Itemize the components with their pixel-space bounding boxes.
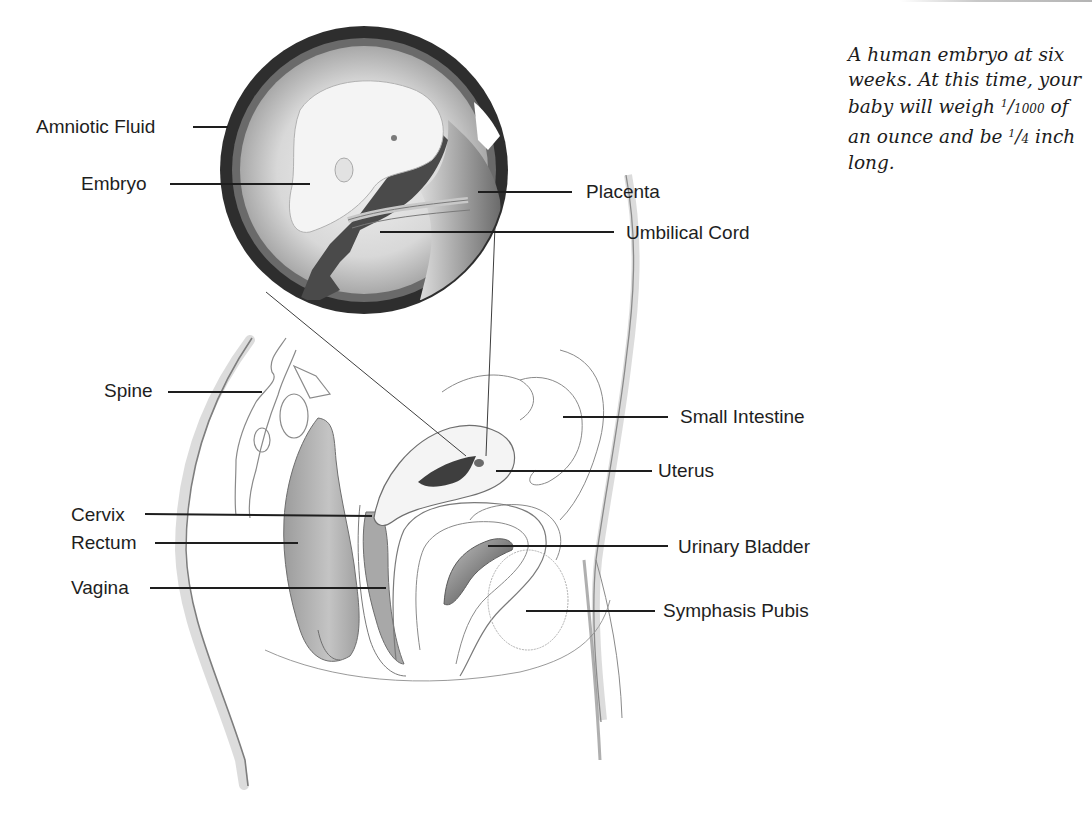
- label-spine: Spine: [104, 381, 153, 400]
- label-amniotic-fluid: Amniotic Fluid: [36, 117, 155, 136]
- label-placenta: Placenta: [586, 182, 660, 201]
- figure-caption: A human embryo at six weeks. At this tim…: [848, 43, 1092, 176]
- label-urinary-bladder: Urinary Bladder: [678, 537, 810, 556]
- uterus-drawing: [374, 425, 515, 525]
- label-small-intestine: Small Intestine: [680, 407, 805, 426]
- weight-numerator: 1: [1001, 97, 1008, 110]
- caption-line-2: weeks. At this time, your: [848, 68, 1092, 93]
- caption-text: an ounce and be: [848, 126, 1008, 147]
- caption-line-1: A human embryo at six: [848, 43, 1092, 68]
- caption-line-3: baby will weigh 1/1000 of: [848, 92, 1092, 122]
- length-numerator: 1: [1008, 127, 1015, 140]
- embryo-inset: [220, 26, 508, 316]
- vagina-drawing: [358, 505, 406, 676]
- caption-line-4: an ounce and be 1/4 inch: [848, 122, 1092, 152]
- label-rectum: Rectum: [71, 533, 136, 552]
- rectum-drawing: [284, 418, 359, 661]
- label-embryo: Embryo: [81, 174, 146, 193]
- caption-text: inch: [1029, 126, 1075, 147]
- bladder-drawing: [393, 503, 568, 676]
- label-uterus: Uterus: [658, 461, 714, 480]
- label-vagina: Vagina: [71, 578, 129, 597]
- label-symphasis-pubis: Symphasis Pubis: [663, 601, 809, 620]
- caption-text: baby will weigh: [848, 96, 1001, 117]
- weight-denominator: 1000: [1014, 102, 1045, 116]
- label-umbilical-cord: Umbilical Cord: [626, 223, 750, 242]
- label-cervix: Cervix: [71, 505, 125, 524]
- caption-line-5: long.: [848, 151, 1092, 176]
- caption-text: of: [1045, 96, 1069, 117]
